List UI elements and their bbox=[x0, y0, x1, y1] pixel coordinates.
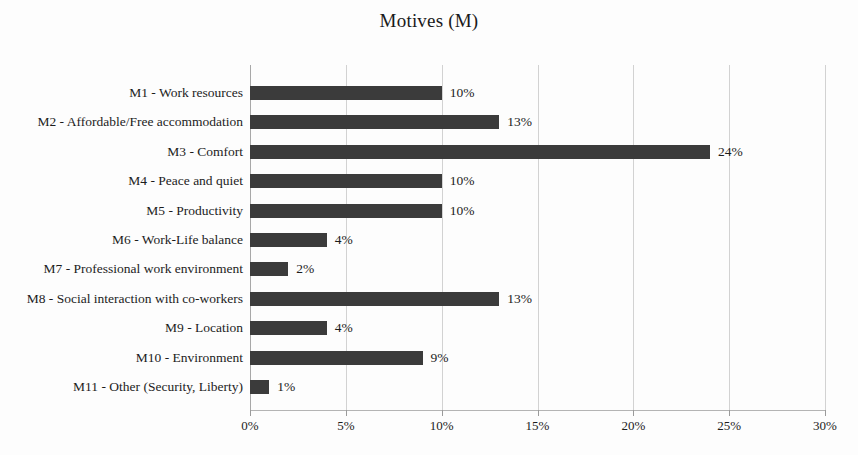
category-label: M4 - Peace and quiet bbox=[0, 166, 243, 196]
bar-value-label: 9% bbox=[431, 343, 449, 373]
bar-value-label: 24% bbox=[718, 137, 743, 167]
bar-row: M7 - Professional work environment2% bbox=[0, 254, 858, 284]
bar-row: M5 - Productivity10% bbox=[0, 196, 858, 226]
bar-value-label: 10% bbox=[450, 196, 475, 226]
x-tick-label: 5% bbox=[316, 418, 376, 434]
category-label: M5 - Productivity bbox=[0, 196, 243, 226]
tick-mark bbox=[825, 410, 826, 416]
bar[interactable] bbox=[250, 321, 327, 335]
tick-mark bbox=[250, 410, 251, 416]
category-label: M7 - Professional work environment bbox=[0, 254, 243, 284]
category-label: M9 - Location bbox=[0, 313, 243, 343]
tick-mark bbox=[729, 410, 730, 416]
tick-mark bbox=[442, 410, 443, 416]
chart-container: Motives (M) M1 - Work resources10%M2 - A… bbox=[0, 0, 858, 455]
bar-value-label: 4% bbox=[335, 225, 353, 255]
category-label: M3 - Comfort bbox=[0, 137, 243, 167]
bar-row: M3 - Comfort24% bbox=[0, 137, 858, 167]
bar[interactable] bbox=[250, 174, 442, 188]
bar-row: M11 - Other (Security, Liberty)1% bbox=[0, 372, 858, 402]
bar-row: M6 - Work-Life balance4% bbox=[0, 225, 858, 255]
category-label: M2 - Affordable/Free accommodation bbox=[0, 107, 243, 137]
bar[interactable] bbox=[250, 292, 499, 306]
bar-row: M2 - Affordable/Free accommodation13% bbox=[0, 107, 858, 137]
category-label: M10 - Environment bbox=[0, 343, 243, 373]
bar[interactable] bbox=[250, 380, 269, 394]
bar[interactable] bbox=[250, 86, 442, 100]
bar-value-label: 1% bbox=[277, 372, 295, 402]
bar-value-label: 10% bbox=[450, 166, 475, 196]
x-tick-label: 0% bbox=[220, 418, 280, 434]
category-label: M6 - Work-Life balance bbox=[0, 225, 243, 255]
bar[interactable] bbox=[250, 351, 423, 365]
tick-mark bbox=[346, 410, 347, 416]
bar[interactable] bbox=[250, 115, 499, 129]
x-tick-label: 20% bbox=[603, 418, 663, 434]
category-label: M11 - Other (Security, Liberty) bbox=[0, 372, 243, 402]
bar-row: M1 - Work resources10% bbox=[0, 78, 858, 108]
bar-row: M9 - Location4% bbox=[0, 313, 858, 343]
bar-row: M10 - Environment9% bbox=[0, 343, 858, 373]
bar[interactable] bbox=[250, 233, 327, 247]
bar-value-label: 10% bbox=[450, 78, 475, 108]
bar-value-label: 2% bbox=[296, 254, 314, 284]
chart-title: Motives (M) bbox=[0, 10, 858, 32]
bar[interactable] bbox=[250, 204, 442, 218]
tick-mark bbox=[633, 410, 634, 416]
x-tick-label: 10% bbox=[412, 418, 472, 434]
x-tick-label: 15% bbox=[508, 418, 568, 434]
bar-row: M4 - Peace and quiet10% bbox=[0, 166, 858, 196]
bar-row: M8 - Social interaction with co-workers1… bbox=[0, 284, 858, 314]
bar[interactable] bbox=[250, 145, 710, 159]
tick-mark bbox=[538, 410, 539, 416]
x-tick-label: 30% bbox=[795, 418, 855, 434]
bar[interactable] bbox=[250, 262, 288, 276]
bar-value-label: 13% bbox=[507, 284, 532, 314]
bar-value-label: 13% bbox=[507, 107, 532, 137]
category-label: M1 - Work resources bbox=[0, 78, 243, 108]
bar-value-label: 4% bbox=[335, 313, 353, 343]
x-tick-label: 25% bbox=[699, 418, 759, 434]
category-label: M8 - Social interaction with co-workers bbox=[0, 284, 243, 314]
